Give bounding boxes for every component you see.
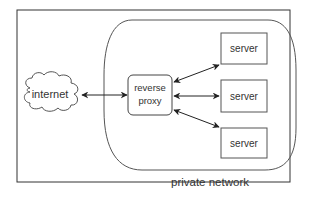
- reverse-proxy-node: reverse proxy: [128, 75, 172, 115]
- server-label: server: [230, 138, 258, 149]
- server-label: server: [230, 91, 258, 102]
- server-node-3: server: [221, 128, 267, 158]
- arrow-proxy-server1: [174, 65, 219, 82]
- arrow-proxy-server3: [174, 110, 219, 127]
- server-node-2: server: [221, 80, 267, 112]
- proxy-label-line1: reverse: [134, 82, 166, 93]
- private-network-label: private network: [171, 176, 249, 188]
- server-label: server: [230, 43, 258, 54]
- proxy-label-line2: proxy: [138, 95, 161, 106]
- server-node-1: server: [221, 33, 267, 64]
- internet-cloud: internet: [24, 72, 77, 112]
- internet-label: internet: [32, 88, 69, 100]
- reverse-proxy-diagram: internet reverse proxy server server ser…: [0, 0, 319, 207]
